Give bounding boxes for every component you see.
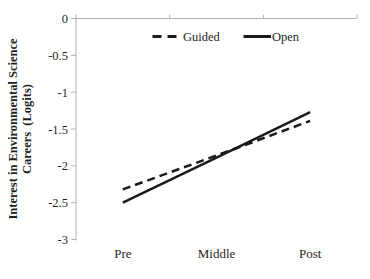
x-category-label: Post [299,246,322,261]
y-axis-title-line2: Careers (Logits) [20,84,34,174]
axes: 0-0.5-1-1.5-2-2.5-3PreMiddlePost [48,12,357,261]
y-tick-label: -3 [58,233,68,247]
y-axis-title: Interest in Environmental Science Career… [6,38,34,220]
series-line-guided [123,121,310,190]
y-tick-label: -2 [58,159,68,173]
y-tick-label: -0.5 [48,49,68,63]
series-line-open [123,112,310,203]
y-tick-label: 0 [62,12,68,26]
line-chart: 0-0.5-1-1.5-2-2.5-3PreMiddlePost Guided … [0,0,370,279]
legend-guided-label: Guided [183,30,221,44]
x-category-label: Middle [198,246,236,261]
data-series [123,112,310,203]
line-chart-figure: 0-0.5-1-1.5-2-2.5-3PreMiddlePost Guided … [0,0,370,279]
legend-open-label: Open [272,30,300,44]
y-tick-label: -2.5 [48,196,68,210]
x-category-label: Pre [114,246,132,261]
legend: Guided Open [153,30,300,44]
y-tick-label: -1.5 [48,123,68,137]
y-tick-label: -1 [58,86,68,100]
y-axis-title-line1: Interest in Environmental Science [6,38,20,220]
